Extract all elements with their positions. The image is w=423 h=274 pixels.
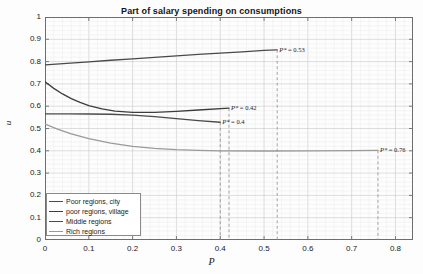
x-tick-label: 0.2 [118, 245, 148, 253]
y-tick-label: 0.5 [11, 125, 41, 133]
chart-title: Part of salary spending on consumptions [0, 6, 423, 16]
legend-item: Rich regions [47, 226, 140, 236]
annotation-p-star-middle: P* = 0.4 [222, 118, 244, 125]
y-tick-label: 0.7 [11, 80, 41, 88]
y-tick-label: 0.2 [11, 191, 41, 199]
x-axis-label: P [0, 256, 423, 267]
x-tick-label: 0.6 [293, 245, 323, 253]
x-tick-label: 0.5 [249, 245, 279, 253]
figure-canvas: Part of salary spending on consumptions … [0, 0, 423, 274]
x-tick-label: 0.4 [205, 245, 235, 253]
y-tick-label: 1 [11, 13, 41, 21]
y-tick-label: 0.4 [11, 147, 41, 155]
legend-swatch-middle [49, 221, 63, 222]
x-tick-label: 0 [30, 245, 60, 253]
y-tick-label: 0.1 [11, 214, 41, 222]
y-tick-label: 0.8 [11, 58, 41, 66]
legend-item: Poor regions, city [47, 196, 140, 206]
x-tick-label: 0.8 [380, 245, 410, 253]
legend-label-poor-village: poor regions, village [66, 208, 129, 215]
legend-label-rich: Rich regions [66, 228, 105, 235]
x-tick-label: 0.7 [337, 245, 367, 253]
annotation-p-star-rich: P* = 0.76 [380, 146, 406, 153]
legend-swatch-poor-city [49, 201, 63, 202]
y-tick-label: 0.9 [11, 35, 41, 43]
y-tick-label: 0 [11, 236, 41, 244]
legend-label-poor-city: Poor regions, city [66, 198, 120, 205]
legend-box: Poor regions, city poor regions, village… [46, 193, 141, 236]
x-tick-label: 0.3 [161, 245, 191, 253]
legend-swatch-rich [49, 231, 63, 232]
legend-swatch-poor-village [49, 211, 63, 212]
x-tick-label: 0.1 [74, 245, 104, 253]
y-tick-label: 0.3 [11, 169, 41, 177]
legend-item: Middle regions [47, 216, 140, 226]
y-axis-label: u [3, 121, 13, 126]
annotation-p-star-village: P* = 0.42 [231, 104, 257, 111]
annotation-p-star-city: P* = 0.53 [279, 46, 305, 53]
legend-label-middle: Middle regions [66, 218, 112, 225]
legend-item: poor regions, village [47, 206, 140, 216]
y-tick-label: 0.6 [11, 102, 41, 110]
